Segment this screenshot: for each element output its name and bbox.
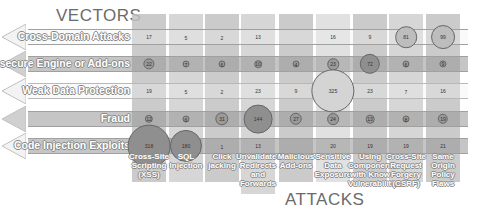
data-bubble: 13 [366, 115, 375, 124]
data-bubble: 21 [438, 141, 449, 152]
attacks-axis-title: ATTACKS [285, 190, 364, 210]
data-bubble: 6 [403, 61, 410, 68]
row-label: Cross-Domain Attacks [18, 30, 130, 42]
data-bubble: 5 [183, 88, 190, 95]
data-bubble: 4 [293, 61, 300, 68]
row-label: Code Injection Exploits [14, 139, 130, 151]
data-bubble: 16 [328, 32, 338, 42]
data-bubble: 8 [403, 116, 410, 123]
data-bubble: 7 [403, 88, 410, 95]
data-bubble: 5 [183, 34, 190, 41]
row-label: Insecure Engine or Add-ons [0, 57, 130, 69]
data-bubble: 17 [144, 32, 154, 42]
data-bubble: 7 [183, 61, 190, 68]
arrow-left-icon [2, 106, 26, 132]
data-bubble: 10 [254, 60, 262, 68]
vectors-axis-title: VECTORS [56, 6, 141, 26]
data-bubble: 16 [438, 86, 448, 96]
data-bubble: 23 [327, 58, 339, 70]
data-bubble: 2 [219, 88, 226, 95]
data-bubble: 2 [219, 34, 226, 41]
data-bubble: 99 [431, 25, 455, 49]
data-bubble: 23 [252, 85, 264, 97]
data-bubble: 13 [254, 142, 263, 151]
row-label: Weak Data Protection [22, 84, 130, 96]
data-bubble: 1 [219, 143, 226, 150]
column-label: Same Origin Policy Flaws [421, 152, 465, 188]
data-bubble: 13 [254, 33, 263, 42]
row-label: Fraud [101, 112, 130, 124]
data-bubble: 6 [183, 116, 190, 123]
data-bubble: 6 [219, 61, 226, 68]
data-bubble: 81 [395, 26, 417, 48]
data-bubble: 144 [244, 105, 273, 134]
data-bubble: 23 [364, 85, 376, 97]
data-bubble: 20 [328, 141, 339, 152]
data-bubble: 24 [327, 113, 339, 125]
